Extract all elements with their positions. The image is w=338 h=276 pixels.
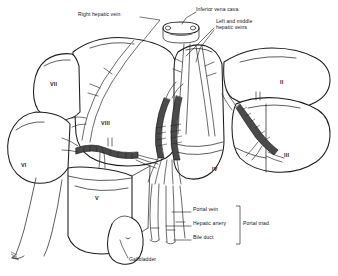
liver-illustration xyxy=(0,0,338,276)
label-gallbladder: Gallbladder xyxy=(129,256,156,262)
portal-triad-bundle xyxy=(150,184,185,244)
segment-label-ii: II xyxy=(280,79,283,85)
label-right-hepatic-vein: Right hepatic vein xyxy=(78,11,120,17)
label-inferior-vena-cava: Inferior vena cava xyxy=(196,6,238,12)
leader-right-hepatic-vein xyxy=(140,17,160,42)
segment-label-iii: III xyxy=(284,152,289,158)
segment-vi-shape xyxy=(8,112,70,183)
portal-triad-bracket xyxy=(236,206,240,244)
liver-anatomy-diagram: Right hepatic vein Inferior vena cava Le… xyxy=(0,0,338,276)
segment-label-vi: VI xyxy=(21,162,27,168)
segment-label-vii: VII xyxy=(50,81,57,87)
label-left-and-middle-hepatic-veins: Left and middle hepatic veins xyxy=(216,18,252,30)
segment-label-viii: VIII xyxy=(101,120,110,126)
segment-label-iv: IV xyxy=(212,166,218,172)
label-portal-triad: Portal triad xyxy=(243,220,269,226)
label-hepatic-artery: Hepatic artery xyxy=(193,220,226,226)
segment-label-v: V xyxy=(95,195,99,201)
tail-hatching xyxy=(11,252,19,260)
inferior-vena-cava-vessel xyxy=(163,22,199,43)
label-portal-vein: Portal vein xyxy=(193,206,218,212)
inferior-right-lobe-tail xyxy=(11,178,62,260)
segment-iii-shape xyxy=(232,98,330,173)
label-bile-duct: Bile duct xyxy=(193,234,213,240)
